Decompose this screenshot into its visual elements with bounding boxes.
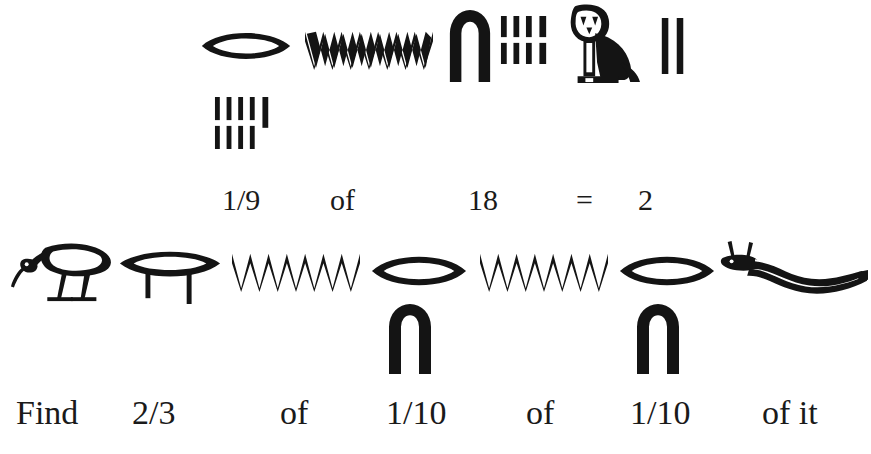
gloss1-token-0: 1/9	[222, 185, 260, 215]
ibis-gm-icon	[10, 238, 116, 304]
gloss2-token-6: of it	[762, 396, 818, 430]
stroke-group-icon	[659, 18, 687, 74]
arch-ten-icon	[386, 302, 434, 374]
figure-canvas: 1/9 of 18 = 2	[0, 0, 871, 454]
gloss2-token-0: Find	[16, 396, 78, 430]
gloss1-token-4: 2	[638, 185, 653, 215]
gloss1-token-2: 18	[468, 185, 498, 215]
gloss2-token-4: of	[526, 396, 554, 430]
water-ripple-n-icon	[232, 250, 360, 292]
gloss2-token-5: 1/10	[630, 396, 690, 430]
gloss2-token-3: 1/10	[386, 396, 446, 430]
water-ripple-n-icon	[305, 28, 433, 70]
arch-ten-icon	[447, 8, 493, 82]
gloss1-token-3: =	[576, 185, 593, 215]
mouth-r-icon	[370, 250, 468, 292]
owl-m-icon	[562, 4, 640, 84]
arch-ten-icon	[634, 302, 682, 374]
gloss1-token-1: of	[330, 185, 355, 215]
mouth-r-icon	[618, 250, 716, 292]
stroke-group-icon	[214, 97, 276, 149]
two-thirds-fraction-icon	[118, 246, 222, 304]
stroke-group-icon	[500, 16, 550, 64]
horned-viper-f-icon	[716, 240, 868, 302]
water-ripple-n-icon	[480, 250, 608, 292]
mouth-r-icon	[200, 27, 292, 65]
gloss2-token-2: of	[280, 396, 308, 430]
gloss2-token-1: 2/3	[132, 396, 175, 430]
